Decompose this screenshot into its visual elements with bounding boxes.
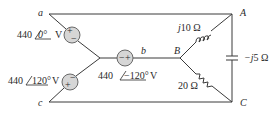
svg-text:−: −	[71, 33, 77, 44]
node-label-B: B	[174, 45, 180, 56]
inductor-icon	[196, 35, 211, 42]
voltage-source-b-icon: − +	[117, 50, 133, 66]
svg-text:+: +	[125, 52, 131, 63]
svg-text:V: V	[52, 75, 60, 86]
wire-a-Va	[49, 14, 66, 29]
source-c-label: 440 120° V	[8, 75, 60, 86]
resistor-label: 20 Ω	[178, 80, 198, 91]
voltage-source-c-icon: − +	[62, 72, 78, 90]
svg-text:440: 440	[8, 75, 23, 86]
svg-text:440: 440	[98, 70, 113, 81]
wire-Vc-c	[49, 88, 64, 102]
svg-text:0°: 0°	[38, 29, 47, 40]
node-label-a: a	[38, 7, 43, 18]
source-a-label: 440 0° V	[17, 29, 63, 40]
wire-n-Vc	[76, 58, 100, 76]
wire-B-R	[180, 58, 196, 74]
svg-text:−120°: −120°	[124, 70, 149, 81]
svg-text:440: 440	[17, 29, 32, 40]
voltage-source-a-icon: + −	[64, 25, 80, 44]
wire-B-L	[180, 42, 196, 58]
wire-L-A	[211, 14, 232, 31]
resistor-icon	[196, 74, 212, 87]
node-label-C: C	[240, 97, 247, 108]
three-phase-circuit-diagram: + − − + − + a c b B A C 440 0° V 440 120…	[0, 0, 275, 113]
svg-text:+: +	[65, 79, 71, 90]
svg-text:120°: 120°	[32, 75, 51, 86]
capacitor-label: −j5 Ω	[244, 52, 268, 63]
wire-R-C	[212, 86, 232, 102]
node-label-c: c	[38, 97, 43, 108]
source-b-label: 440 −120° V	[98, 70, 158, 81]
wire-Va-n	[78, 41, 100, 58]
node-label-b: b	[141, 45, 146, 56]
svg-text:V: V	[55, 29, 63, 40]
inductor-label: j10 Ω	[176, 22, 201, 33]
svg-text:−: −	[70, 72, 76, 83]
node-label-A: A	[239, 7, 247, 18]
capacitor-icon	[226, 56, 238, 60]
svg-text:V: V	[150, 70, 158, 81]
